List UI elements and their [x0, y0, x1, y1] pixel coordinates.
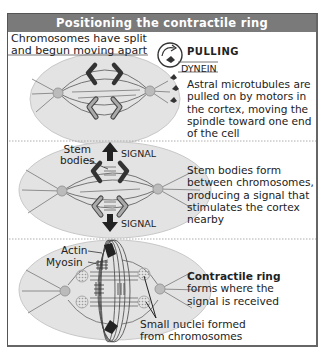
label-myosin: Myosin: [46, 257, 83, 268]
label-small-nuclei: Small nuclei formed from chromosomes: [140, 319, 246, 342]
label-dynein: DYNEIN: [181, 63, 217, 74]
description-signal: Stem bodies form between chromosomes, pr…: [187, 164, 314, 225]
label-signal-top: SIGNAL: [121, 148, 156, 159]
description-ring: Contractile ring forms where the signal …: [187, 270, 281, 307]
description-pulling: Astral microtubules are pulled on by mot…: [187, 78, 312, 139]
cell-pulling: [8, 53, 180, 145]
label-signal-bottom: SIGNAL: [121, 218, 156, 229]
label-pulling: PULLING: [187, 46, 239, 57]
label-stem-bodies: Stem bodies: [60, 144, 95, 166]
caption-chromosomes-split: Chromosomes have split and begun moving …: [11, 33, 147, 58]
label-actin: Actin: [61, 245, 87, 256]
